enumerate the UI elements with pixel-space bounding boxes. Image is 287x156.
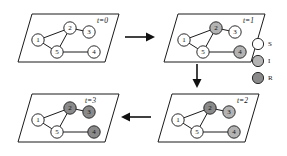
node-3-label: 3 bbox=[227, 108, 231, 116]
legend-swatch-infected bbox=[252, 55, 263, 66]
legend-label-susceptible: S bbox=[268, 40, 272, 48]
node-2-label: 2 bbox=[208, 104, 212, 112]
panel-t3: 1 2 3 4 5 t=3 bbox=[18, 94, 119, 142]
legend: S I R bbox=[252, 38, 273, 83]
legend-label-recovered: R bbox=[268, 74, 273, 82]
panel-t0-time-label: t=0 bbox=[97, 16, 108, 25]
arrow-t2-t3 bbox=[121, 113, 151, 122]
legend-swatch-recovered bbox=[252, 72, 263, 83]
node-2-label: 2 bbox=[214, 24, 218, 32]
panel-t3-time-label: t=3 bbox=[85, 96, 96, 105]
node-2-label: 2 bbox=[68, 24, 72, 32]
node-1-label: 1 bbox=[182, 36, 186, 44]
arrow-t1-t2 bbox=[193, 64, 202, 88]
node-5-label: 5 bbox=[55, 128, 59, 136]
node-1-label: 1 bbox=[176, 116, 180, 124]
node-5-label: 5 bbox=[201, 48, 205, 56]
node-5-label: 5 bbox=[55, 48, 59, 56]
panel-t1-time-label: t=1 bbox=[243, 16, 254, 25]
node-4-label: 4 bbox=[92, 48, 96, 56]
node-4-label: 4 bbox=[238, 48, 242, 56]
panel-t1: 1 2 3 4 5 t=1 bbox=[164, 14, 265, 62]
node-2-label: 2 bbox=[68, 104, 72, 112]
arrow-t0-t1 bbox=[125, 33, 155, 42]
panel-t2-time-label: t=2 bbox=[237, 96, 248, 105]
sir-network-diagram: 1 2 3 4 5 t=0 1 2 3 4 5 t=1 bbox=[0, 0, 287, 156]
legend-label-infected: I bbox=[268, 57, 271, 65]
node-3-label: 3 bbox=[87, 108, 91, 116]
node-4-label: 4 bbox=[92, 128, 96, 136]
panel-t2: 1 2 3 4 5 t=2 bbox=[158, 94, 259, 142]
node-3-label: 3 bbox=[87, 28, 91, 36]
node-1-label: 1 bbox=[36, 36, 40, 44]
node-4-label: 4 bbox=[232, 128, 236, 136]
panel-t0: 1 2 3 4 5 t=0 bbox=[18, 14, 119, 62]
node-1-label: 1 bbox=[36, 116, 40, 124]
legend-swatch-susceptible bbox=[252, 38, 263, 49]
node-5-label: 5 bbox=[195, 128, 199, 136]
node-3-label: 3 bbox=[233, 28, 237, 36]
